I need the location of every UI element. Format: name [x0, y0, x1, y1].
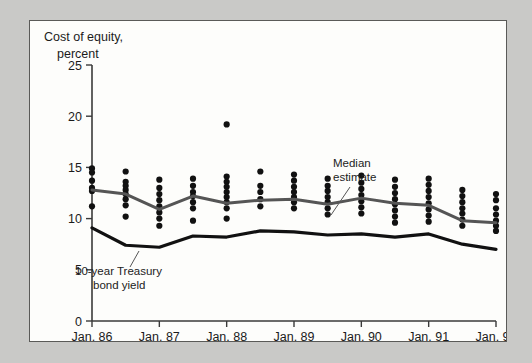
scatter-point [291, 178, 297, 184]
scatter-point [325, 176, 331, 182]
scatter-point [123, 202, 129, 208]
scatter-point [190, 183, 196, 189]
x-tick-label: Jan. 91 [408, 330, 449, 341]
scatter-point [123, 168, 129, 174]
median-annotation-line1: Median [333, 157, 371, 169]
scatter-point [89, 203, 95, 209]
scatter-point [190, 218, 196, 224]
scatter-point [156, 216, 162, 222]
x-tick-label: Jan. 87 [139, 330, 180, 341]
scatter-point [190, 205, 196, 211]
treasury-yield-line [92, 228, 496, 250]
scatter-point [123, 196, 129, 202]
scatter-point [89, 169, 95, 175]
x-tick-label: Jan. 90 [341, 330, 382, 341]
scatter-point [459, 193, 465, 199]
scatter-point [325, 188, 331, 194]
scatter-point [190, 199, 196, 205]
scatter-point [358, 210, 364, 216]
scatter-point [459, 187, 465, 193]
scatter-point [493, 197, 499, 203]
scatter-point [257, 203, 263, 209]
y-tick-label: 10 [68, 212, 82, 226]
scatter-points [89, 121, 499, 234]
x-axis: Jan. 86Jan. 87Jan. 88Jan. 89Jan. 90Jan. … [71, 321, 506, 341]
median-annotation-line2: estimate [333, 171, 376, 183]
scatter-point [426, 194, 432, 200]
scatter-point [257, 183, 263, 189]
scatter-point [358, 204, 364, 210]
scatter-point [156, 223, 162, 229]
chart-title-line1: Cost of equity, [44, 30, 123, 44]
y-tick-label: 25 [68, 59, 82, 73]
scatter-point [257, 189, 263, 195]
scatter-point [392, 213, 398, 219]
scatter-point [392, 177, 398, 183]
scatter-point [426, 188, 432, 194]
scatter-point [493, 205, 499, 211]
scatter-point [426, 219, 432, 225]
scatter-point [156, 191, 162, 197]
treasury-annotation-line1: 10-year Treasury [75, 265, 162, 277]
scatter-point [190, 176, 196, 182]
scatter-point [392, 184, 398, 190]
scatter-point [325, 205, 331, 211]
scatter-point [392, 220, 398, 226]
x-tick-label: Jan. 92 [475, 330, 506, 341]
x-tick-label: Jan. 88 [206, 330, 247, 341]
scatter-point [156, 197, 162, 203]
cost-of-equity-chart: Cost of equity, percent 0510152025 Jan. … [30, 21, 506, 341]
x-tick-label: Jan. 89 [273, 330, 314, 341]
scatter-point [459, 210, 465, 216]
y-tick-label: 20 [68, 110, 82, 124]
scatter-point [291, 171, 297, 177]
scatter-point [459, 223, 465, 229]
scatter-point [426, 176, 432, 182]
scatter-point [459, 199, 465, 205]
scatter-point [291, 205, 297, 211]
scatter-point [392, 207, 398, 213]
chart-figure: Cost of equity, percent 0510152025 Jan. … [29, 20, 507, 342]
scatter-point [89, 178, 95, 184]
scatter-point [426, 182, 432, 188]
scatter-point [493, 191, 499, 197]
scatter-point [358, 186, 364, 192]
scatter-point [224, 121, 230, 127]
x-tick-label: Jan. 86 [71, 330, 112, 341]
scatter-point [426, 212, 432, 218]
scatter-point [493, 228, 499, 234]
scatter-point [392, 190, 398, 196]
scatter-point [156, 177, 162, 183]
treasury-annotation-line2: bond yield [93, 279, 145, 291]
scatter-point [224, 216, 230, 222]
scatter-point [123, 213, 129, 219]
y-tick-label: 0 [75, 315, 82, 329]
scatter-point [325, 211, 331, 217]
y-axis: 0510152025 [68, 59, 92, 329]
scatter-point [493, 211, 499, 217]
scatter-point [224, 205, 230, 211]
scatter-point [257, 168, 263, 174]
scatter-point [156, 185, 162, 191]
y-tick-label: 15 [68, 161, 82, 175]
